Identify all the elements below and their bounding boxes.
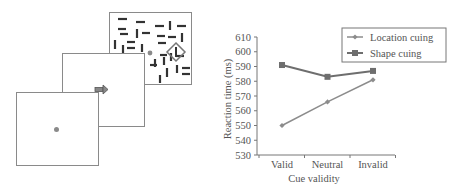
x-tick-label: Invalid — [358, 159, 388, 170]
y-axis-label: Reaction time (ms) — [222, 58, 234, 139]
diamond-marker-icon — [325, 99, 330, 104]
legend-label: Shape cuing — [370, 48, 422, 59]
reaction-time-chart: 530540550560570580590600610 ValidNeutral… — [0, 0, 451, 195]
x-tick-label: Neutral — [312, 159, 344, 170]
diamond-marker-icon — [370, 77, 375, 82]
diamond-marker-icon — [279, 123, 284, 128]
y-tick-label: 610 — [235, 32, 251, 43]
square-marker-icon — [370, 68, 376, 74]
y-tick-label: 570 — [235, 91, 251, 102]
y-tick-label: 540 — [235, 135, 251, 146]
series-location-cuing — [279, 77, 375, 128]
y-tick-label: 580 — [235, 76, 251, 87]
x-tick-label: Valid — [271, 159, 294, 170]
x-axis-label: Cue validity — [288, 173, 340, 184]
y-tick-label: 550 — [235, 120, 251, 131]
figure: 530540550560570580590600610 ValidNeutral… — [0, 0, 451, 195]
y-tick-label: 560 — [235, 105, 251, 116]
square-marker-icon — [352, 50, 358, 56]
y-tick-label: 590 — [235, 61, 251, 72]
square-marker-icon — [279, 62, 285, 68]
legend-label: Location cuing — [370, 32, 434, 43]
series-shape-cuing — [279, 62, 376, 80]
y-tick-label: 600 — [235, 46, 251, 57]
y-tick-label: 530 — [235, 150, 251, 161]
square-marker-icon — [325, 74, 331, 80]
chart-legend: Location cuingShape cuing — [342, 28, 446, 62]
